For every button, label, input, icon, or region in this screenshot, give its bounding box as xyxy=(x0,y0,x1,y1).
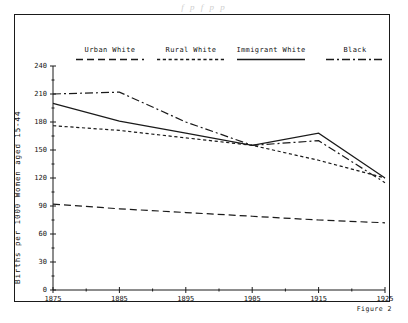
series-line-urban-white xyxy=(53,204,385,223)
figure-caption: Figure 2 xyxy=(357,305,392,313)
series-line-rural-white xyxy=(53,126,385,178)
chart-plot-area xyxy=(14,14,390,302)
series-line-immigrant-white xyxy=(53,103,385,178)
series-line-black xyxy=(53,92,385,183)
page-bleed-text: f p f p p xyxy=(0,0,408,14)
